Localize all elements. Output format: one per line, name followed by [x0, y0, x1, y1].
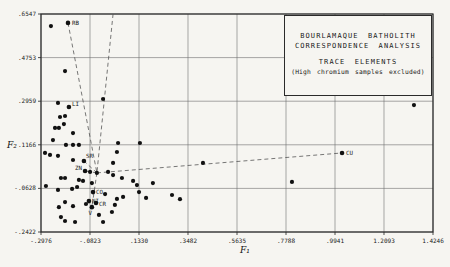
- data-point: [71, 131, 75, 135]
- element-point: [94, 201, 99, 206]
- element-label: LI: [72, 101, 79, 107]
- element-label: V: [88, 210, 92, 216]
- element-point: [83, 169, 88, 174]
- data-point: [120, 176, 124, 180]
- data-point: [71, 143, 75, 147]
- x-tick-label: 1.4246: [422, 237, 444, 244]
- data-point: [59, 215, 63, 219]
- x-tick-label: .5635: [228, 237, 246, 244]
- y-tick-label: .6547: [18, 10, 36, 17]
- data-point: [116, 141, 120, 145]
- element-point: [91, 190, 96, 195]
- data-point: [56, 188, 60, 192]
- data-point: [97, 213, 101, 217]
- element-label: CU: [346, 150, 353, 156]
- x-tick-label: .3482: [179, 237, 197, 244]
- data-point: [57, 126, 61, 130]
- element-point: [90, 205, 95, 210]
- data-point: [44, 184, 48, 188]
- x-tick-label: -.0823: [79, 237, 101, 244]
- data-point: [170, 193, 174, 197]
- data-point: [135, 183, 139, 187]
- data-point: [48, 153, 52, 157]
- data-point: [101, 220, 105, 224]
- element-point: [67, 105, 72, 110]
- title-box: BOURLAMAQUE BATHOLITH CORRESPONDENCE ANA…: [284, 15, 432, 96]
- data-point: [95, 171, 99, 175]
- element-label: RB: [72, 20, 79, 26]
- data-point: [56, 101, 60, 105]
- data-point: [43, 151, 47, 155]
- dashed-connector: [97, 153, 342, 173]
- title-line-2: CORRESPONDENCE ANALYSIS: [285, 41, 431, 51]
- y-tick-label: .1166: [18, 141, 36, 148]
- data-point: [115, 150, 119, 154]
- y-tick-label: -.2422: [14, 228, 36, 235]
- data-point: [106, 170, 110, 174]
- x-tick-label: .1330: [130, 237, 148, 244]
- y-tick-label: .2959: [18, 97, 36, 104]
- element-label: CR: [99, 201, 106, 207]
- data-point: [63, 69, 67, 73]
- data-point: [178, 197, 182, 201]
- data-point: [151, 181, 155, 185]
- data-point: [103, 192, 107, 196]
- data-point: [70, 187, 74, 191]
- title-line-3: TRACE ELEMENTS: [285, 57, 431, 67]
- data-point: [59, 176, 63, 180]
- data-point: [111, 161, 115, 165]
- data-point: [137, 190, 141, 194]
- y-tick-label: .4753: [18, 54, 36, 61]
- data-point: [53, 126, 57, 130]
- data-point: [110, 210, 114, 214]
- data-point: [77, 143, 81, 147]
- title-line-1: BOURLAMAQUE BATHOLITH: [285, 31, 431, 41]
- data-point: [111, 173, 115, 177]
- element-label: ZN: [75, 165, 82, 171]
- data-point: [138, 141, 142, 145]
- x-tick-label: .9941: [326, 237, 344, 244]
- x-tick-label: .7788: [277, 237, 295, 244]
- data-point: [121, 195, 125, 199]
- title-line-4: (High chromium samples excluded): [285, 67, 431, 77]
- figure-canvas: RBLISRZNCONICRVCU-.2976-.0823.1330.3482.…: [0, 0, 450, 267]
- data-point: [290, 180, 294, 184]
- data-point: [73, 220, 77, 224]
- data-point: [81, 179, 85, 183]
- data-point: [63, 114, 67, 118]
- data-point: [63, 200, 67, 204]
- data-point: [64, 143, 68, 147]
- x-tick-label: -.2976: [30, 237, 52, 244]
- data-point: [115, 197, 119, 201]
- dashed-connector: [97, 14, 113, 173]
- element-point: [87, 199, 92, 204]
- element-point: [340, 151, 345, 156]
- element-point: [82, 159, 87, 164]
- element-point: [66, 21, 71, 26]
- data-point: [71, 158, 75, 162]
- element-label: CO: [96, 189, 103, 195]
- data-point: [101, 97, 105, 101]
- data-point: [412, 103, 416, 107]
- element-label: SR: [86, 153, 93, 159]
- data-point: [49, 24, 53, 28]
- data-point: [144, 196, 148, 200]
- data-point: [58, 115, 62, 119]
- data-point: [63, 219, 67, 223]
- data-point: [62, 122, 66, 126]
- x-axis-title: F₁: [240, 245, 250, 255]
- x-tick-label: 1.2093: [373, 237, 395, 244]
- data-point: [88, 170, 92, 174]
- data-point: [77, 178, 81, 182]
- y-axis-title: F₂: [7, 140, 17, 150]
- data-point: [56, 154, 60, 158]
- dashed-connector: [68, 23, 97, 173]
- data-point: [75, 185, 79, 189]
- data-point: [71, 204, 75, 208]
- data-point: [113, 203, 117, 207]
- data-point: [51, 138, 55, 142]
- data-point: [63, 176, 67, 180]
- data-point: [131, 179, 135, 183]
- data-point: [90, 181, 94, 185]
- data-point: [57, 205, 61, 209]
